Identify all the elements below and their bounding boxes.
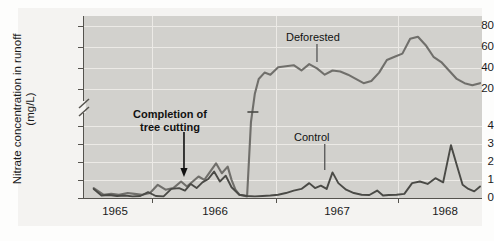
y-tick-label-60: 60 [420, 41, 494, 52]
gridline-x-1967 [398, 16, 399, 198]
y-tick-1 [78, 180, 83, 181]
y-tick-label-4: 4 [420, 120, 494, 131]
y-tick-2 [78, 162, 83, 163]
annotation-control: Control [294, 131, 329, 143]
gridline-x-1965 [152, 16, 153, 198]
y-tick-label-2: 2 [420, 156, 494, 167]
x-tick-2 [276, 198, 277, 203]
y-tick-label-80: 80 [420, 20, 494, 31]
y-tick-label-0: 0 [420, 192, 494, 203]
y-tick-label-40: 40 [420, 62, 494, 73]
annotation-cut-line2: tree cutting [140, 121, 200, 133]
x-tick-label-1967: 1967 [324, 205, 350, 217]
annotation-cut-line1: Completion of [133, 108, 207, 120]
annotation-deforested: Deforested [286, 31, 340, 43]
y-tick-3 [78, 144, 83, 145]
x-tick-label-1965: 1965 [102, 205, 128, 217]
y-tick-60 [78, 47, 83, 48]
x-tick-1 [152, 198, 153, 203]
gridline-x-1966 [276, 16, 277, 198]
x-tick-label-1966: 1966 [202, 205, 228, 217]
y-tick-label-1: 1 [420, 174, 494, 185]
y-tick-label-3: 3 [420, 138, 494, 149]
y-tick-40 [78, 68, 83, 69]
y-tick-label-20: 20 [420, 83, 494, 94]
y-axis-title-line1: Nitrate concentration in runoff [11, 34, 23, 185]
y-axis-title: Nitrate concentration in runoff (mg/L) [11, 14, 37, 204]
y-tick-0 [78, 198, 83, 199]
x-tick-label-1968: 1968 [432, 205, 458, 217]
y-axis-line [83, 16, 84, 199]
y-axis-title-line2: (mg/L) [24, 92, 36, 125]
x-tick-3 [398, 198, 399, 203]
annotation-completion-of-tree-cutting: Completion of tree cutting [120, 108, 220, 133]
figure-container: 80 60 40 20 4 3 2 1 0 1965 1966 1967 196… [0, 0, 494, 241]
y-tick-80 [78, 26, 83, 27]
y-tick-20 [78, 89, 83, 90]
y-tick-4 [78, 126, 83, 127]
